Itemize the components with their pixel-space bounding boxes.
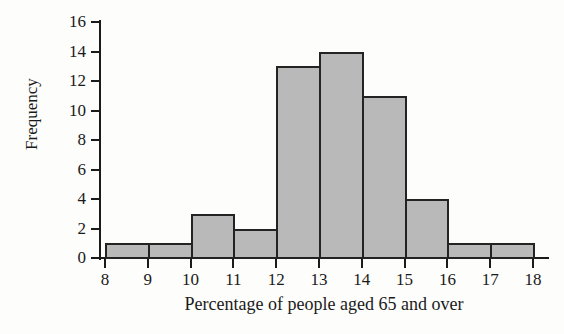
- x-tick-mark: [489, 259, 491, 268]
- y-axis-line: [99, 20, 101, 260]
- y-tick-mark: [91, 257, 99, 259]
- histogram-bar: [319, 52, 364, 260]
- x-tick-label: 10: [171, 271, 211, 289]
- y-tick-label: 6: [60, 161, 86, 178]
- y-tick-mark: [91, 110, 99, 112]
- x-tick-mark: [104, 259, 106, 268]
- x-tick-mark: [446, 259, 448, 268]
- x-tick-label: 16: [427, 271, 467, 289]
- y-tick-label: 12: [60, 72, 86, 89]
- histogram-bar: [405, 199, 450, 259]
- x-tick-mark: [190, 259, 192, 268]
- x-tick-mark: [361, 259, 363, 268]
- y-axis-title: Frequency: [22, 44, 42, 184]
- y-tick-label: 16: [60, 13, 86, 30]
- x-tick-mark: [147, 259, 149, 268]
- histogram-figure: 0246810121416 89101112131415161718 Frequ…: [0, 0, 564, 334]
- x-tick-mark: [318, 259, 320, 268]
- x-tick-mark: [404, 259, 406, 268]
- histogram-bar: [233, 229, 278, 260]
- y-tick-label: 4: [60, 190, 86, 207]
- y-tick-mark: [91, 51, 99, 53]
- y-tick-mark: [91, 139, 99, 141]
- histogram-bar: [276, 66, 321, 259]
- y-tick-label: 8: [60, 131, 86, 148]
- histogram-bar: [447, 243, 492, 259]
- y-tick-mark: [91, 169, 99, 171]
- x-tick-label: 18: [513, 271, 553, 289]
- x-tick-label: 15: [385, 271, 425, 289]
- plot-area: 0246810121416 89101112131415161718 Frequ…: [0, 0, 564, 334]
- y-tick-label: 10: [60, 102, 86, 119]
- x-tick-mark: [275, 259, 277, 268]
- x-tick-label: 9: [128, 271, 168, 289]
- histogram-bar: [105, 243, 150, 259]
- histogram-bar: [362, 96, 407, 259]
- y-tick-label: 2: [60, 220, 86, 237]
- x-tick-mark: [532, 259, 534, 268]
- x-tick-mark: [232, 259, 234, 268]
- x-tick-label: 17: [470, 271, 510, 289]
- x-tick-label: 14: [342, 271, 382, 289]
- x-axis-title: Percentage of people aged 65 and over: [99, 294, 549, 315]
- y-tick-mark: [91, 198, 99, 200]
- y-tick-mark: [91, 21, 99, 23]
- x-tick-label: 11: [213, 271, 253, 289]
- histogram-bar: [148, 243, 193, 259]
- x-tick-label: 12: [256, 271, 296, 289]
- y-tick-mark: [91, 228, 99, 230]
- y-tick-label: 14: [60, 43, 86, 60]
- histogram-bar: [490, 243, 535, 259]
- y-tick-label: 0: [60, 249, 86, 266]
- y-tick-mark: [91, 80, 99, 82]
- x-tick-label: 8: [85, 271, 125, 289]
- x-tick-label: 13: [299, 271, 339, 289]
- histogram-bar: [191, 214, 236, 259]
